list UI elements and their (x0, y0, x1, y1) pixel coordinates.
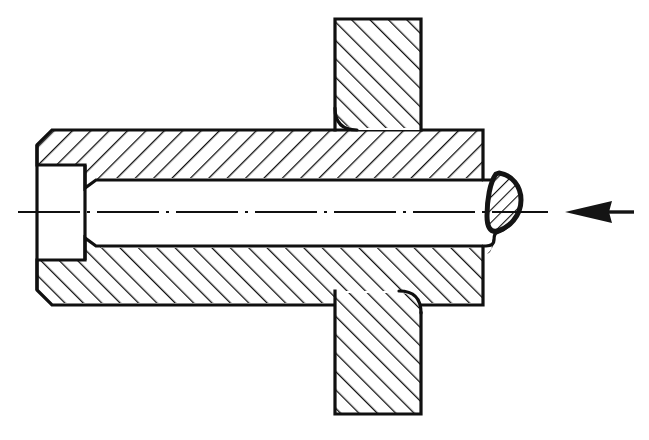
technical-drawing-figure: Cross-section assembly drawing Sectional… (0, 0, 649, 440)
sleeve-lower-wall-section (30, 240, 492, 312)
sleeve-lower-wall-hatch (30, 240, 492, 312)
lower-plate-section (328, 286, 430, 420)
lower-plate-hatch (328, 286, 430, 420)
upper-plate-section (328, 12, 430, 138)
sleeve-upper-wall-hatch (30, 124, 492, 186)
sleeve-upper-wall-section (30, 124, 492, 186)
upper-plate-hatch (328, 12, 430, 138)
sleeve-body-group (30, 124, 512, 312)
cross-section-drawing: Cross-section assembly drawing Sectional… (0, 0, 649, 440)
